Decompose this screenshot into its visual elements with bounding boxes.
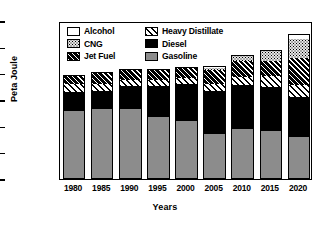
bar-segment-2010-alcohol xyxy=(231,55,253,56)
x-tick-label-1985: 1985 xyxy=(87,183,115,193)
legend-swatch-jet-fuel xyxy=(67,52,80,61)
bar-segment-2020-gasoline xyxy=(288,137,310,179)
bar-segment-2005-cng xyxy=(203,68,225,70)
legend-swatch-heavy-distillate xyxy=(145,27,158,36)
legend-item-gasoline: Gasoline xyxy=(145,51,233,61)
bar-segment-1985-gasoline xyxy=(91,109,113,179)
bar-segment-2005-diesel xyxy=(203,91,225,134)
legend-label-jet-fuel: Jet Fuel xyxy=(84,51,115,61)
bar-segment-2000-diesel xyxy=(175,84,197,121)
legend-label-diesel: Diesel xyxy=(162,39,186,49)
bar-segment-1990-jet-fuel xyxy=(119,69,141,80)
bar-2015 xyxy=(260,21,282,179)
y-tick-mark xyxy=(0,48,5,50)
bar-segment-2005-gasoline xyxy=(203,134,225,179)
y-tick-mark xyxy=(0,179,5,181)
legend-item-diesel: Diesel xyxy=(145,39,233,49)
bar-segment-2010-gasoline xyxy=(231,129,253,179)
x-tick-label-2020: 2020 xyxy=(284,183,312,193)
bar-segment-2015-alcohol xyxy=(260,50,282,51)
bar-segment-2015-diesel xyxy=(260,87,282,131)
chart-legend: Alcohol Heavy Distillate CNG Diesel Jet … xyxy=(67,25,233,63)
bar-segment-2015-jet-fuel xyxy=(260,61,282,77)
x-tick-label-2015: 2015 xyxy=(256,183,284,193)
bar-segment-1990-gasoline xyxy=(119,109,141,179)
bar-segment-2015-cng xyxy=(260,51,282,60)
bar-segment-2010-diesel xyxy=(231,85,253,129)
bar-segment-1990-diesel xyxy=(119,86,141,109)
legend-swatch-cng xyxy=(67,39,80,48)
legend-label-cng: CNG xyxy=(84,39,103,49)
y-tick-mark xyxy=(0,153,5,155)
bar-segment-1995-heavy-distillate xyxy=(147,80,169,86)
bar-segment-1980-diesel xyxy=(63,92,85,111)
bar-segment-1995-jet-fuel xyxy=(147,69,169,80)
legend-swatch-diesel xyxy=(145,39,158,48)
bar-segment-2020-diesel xyxy=(288,97,310,137)
bar-segment-2020-heavy-distillate xyxy=(288,85,310,97)
x-tick-label-2010: 2010 xyxy=(228,183,256,193)
legend-label-gasoline: Gasoline xyxy=(162,51,197,61)
bar-segment-1995-diesel xyxy=(147,86,169,117)
bar-segment-1985-jet-fuel xyxy=(91,72,113,85)
legend-item-heavy-distillate: Heavy Distillate xyxy=(145,26,233,36)
bar-segment-2015-gasoline xyxy=(260,131,282,179)
legend-label-alcohol: Alcohol xyxy=(84,26,114,36)
bar-segment-2020-alcohol xyxy=(288,34,310,39)
bar-segment-2005-alcohol xyxy=(203,66,225,68)
bar-segment-2010-jet-fuel xyxy=(231,61,253,77)
bar-segment-2000-gasoline xyxy=(175,121,197,179)
bar-segment-1980-jet-fuel xyxy=(63,75,85,84)
legend-swatch-gasoline xyxy=(145,52,158,61)
bar-segment-1980-heavy-distillate xyxy=(63,84,85,92)
bar-segment-1990-heavy-distillate xyxy=(119,80,141,86)
x-tick-label-1990: 1990 xyxy=(115,183,143,193)
bar-segment-1985-heavy-distillate xyxy=(91,84,113,91)
legend-swatch-alcohol xyxy=(67,27,80,36)
bar-segment-1980-gasoline xyxy=(63,111,85,179)
x-tick-label-2005: 2005 xyxy=(200,183,228,193)
bar-segment-2010-heavy-distillate xyxy=(231,77,253,85)
bar-segment-2020-cng xyxy=(288,39,310,57)
bar-segment-1985-diesel xyxy=(91,91,113,109)
legend-item-jet-fuel: Jet Fuel xyxy=(67,51,145,61)
bar-segment-2010-cng xyxy=(231,56,253,61)
bar-segment-1995-gasoline xyxy=(147,117,169,179)
legend-item-cng: CNG xyxy=(67,39,145,49)
bar-segment-2005-heavy-distillate xyxy=(203,84,225,91)
bar-segment-2005-jet-fuel xyxy=(203,70,225,84)
bar-segment-2020-jet-fuel xyxy=(288,58,310,85)
bar-segment-2000-jet-fuel xyxy=(175,67,197,78)
x-axis-title: Years xyxy=(0,202,330,212)
legend-label-heavy-distillate: Heavy Distillate xyxy=(162,26,223,36)
bar-segment-2015-heavy-distillate xyxy=(260,76,282,87)
x-tick-label-2000: 2000 xyxy=(171,183,199,193)
y-axis-title: Peta Joule xyxy=(9,39,19,119)
chart-container: 050001000015000200002500030000 Peta Joul… xyxy=(0,0,330,228)
bar-segment-2000-heavy-distillate xyxy=(175,78,197,84)
bar-2020 xyxy=(288,21,310,179)
legend-item-alcohol: Alcohol xyxy=(67,26,145,36)
x-tick-label-1995: 1995 xyxy=(143,183,171,193)
y-tick-mark xyxy=(0,74,5,76)
bar-2010 xyxy=(231,21,253,179)
y-tick-mark xyxy=(0,127,5,129)
y-tick-mark xyxy=(0,100,5,102)
x-tick-label-1980: 1980 xyxy=(59,183,87,193)
y-tick-mark xyxy=(0,21,5,23)
